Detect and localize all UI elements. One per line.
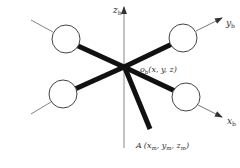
origin-label: ob(x, y, z) (140, 65, 177, 75)
y-axis-label: yb (225, 18, 235, 29)
y-axis (196, 18, 222, 31)
point-a-label: A(xm, ym, zm) (135, 141, 189, 151)
x-axis (198, 105, 222, 117)
rotor-bottom-left (49, 80, 77, 108)
quadrotor-diagram: zb yb xb ob(x, y, z) A(xm, ym, zm) (0, 0, 240, 168)
rotor-top-right (169, 24, 197, 52)
arm-top-left (76, 45, 124, 67)
arm-extension-top-left (31, 20, 53, 32)
z-axis-label: zb (112, 5, 122, 16)
arm-bottom-left (75, 67, 124, 89)
x-axis-label: xb (227, 116, 236, 127)
arm-extension-bottom-left (31, 102, 51, 114)
rotor-bottom-right (172, 83, 200, 111)
rotor-top-left (52, 25, 80, 53)
arm-top-right (124, 44, 172, 67)
